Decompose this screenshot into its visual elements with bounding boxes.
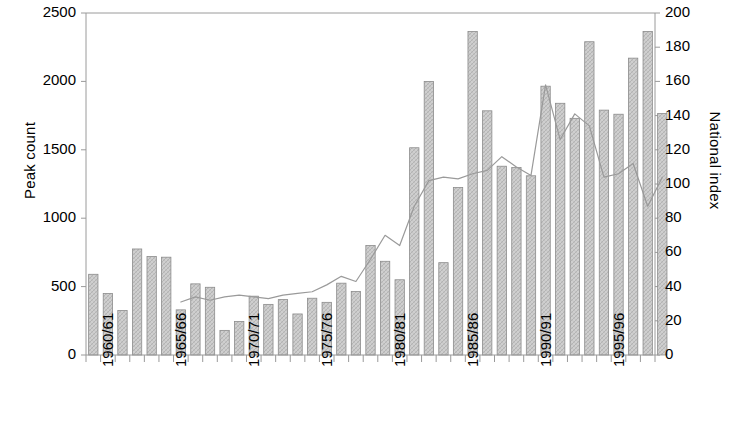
x-tick-label: 1970/71 — [245, 313, 262, 367]
bar — [556, 103, 565, 355]
y-tick-label-right: 80 — [665, 208, 709, 225]
y-tick-label-left: 2000 — [32, 71, 76, 88]
y-tick-label-right: 200 — [665, 3, 709, 20]
plot-area — [0, 0, 742, 439]
bar — [468, 31, 477, 355]
bar — [162, 257, 171, 355]
bar — [89, 274, 98, 355]
bar — [235, 321, 244, 355]
bar — [380, 261, 389, 355]
bar — [337, 283, 346, 355]
y-tick-label-right: 160 — [665, 71, 709, 88]
y-tick-label-right: 20 — [665, 311, 709, 328]
x-tick-label: 1960/61 — [99, 313, 116, 367]
y-tick-label-left: 0 — [32, 345, 76, 362]
bar-series — [89, 31, 667, 355]
bar — [205, 287, 214, 355]
bar — [570, 118, 579, 355]
left-axis-ticks — [81, 13, 86, 355]
y-tick-label-left: 1000 — [32, 208, 76, 225]
bar — [366, 246, 375, 355]
bar — [453, 187, 462, 355]
x-tick-label: 1980/81 — [391, 313, 408, 367]
bar — [585, 42, 594, 355]
y-tick-label-left: 500 — [32, 277, 76, 294]
y-tick-label-left: 2500 — [32, 3, 76, 20]
bar — [483, 111, 492, 355]
x-tick-label: 1995/96 — [610, 313, 627, 367]
chart-container: Peak count National index 05001000150020… — [0, 0, 742, 439]
bar — [599, 110, 608, 355]
y-tick-label-right: 60 — [665, 242, 709, 259]
bar — [439, 263, 448, 355]
bar — [278, 300, 287, 355]
bar — [351, 291, 360, 355]
x-tick-label: 1990/91 — [537, 313, 554, 367]
y-tick-label-right: 180 — [665, 37, 709, 54]
bar — [132, 249, 141, 355]
y-tick-label-right: 0 — [665, 345, 709, 362]
y-tick-label-right: 100 — [665, 174, 709, 191]
bar — [512, 168, 521, 355]
x-tick-label: 1965/66 — [172, 313, 189, 367]
y-tick-label-right: 140 — [665, 106, 709, 123]
y-tick-label-left: 1500 — [32, 140, 76, 157]
bar — [410, 148, 419, 355]
y-tick-label-right: 120 — [665, 140, 709, 157]
bar — [307, 298, 316, 355]
bar — [497, 166, 506, 355]
y-tick-label-right: 40 — [665, 277, 709, 294]
bar — [264, 304, 273, 355]
bar — [220, 330, 229, 355]
bar — [118, 311, 127, 355]
bar — [293, 314, 302, 355]
bar — [643, 31, 652, 355]
bar — [191, 284, 200, 355]
bar — [424, 81, 433, 355]
bar — [526, 176, 535, 355]
bar — [147, 257, 156, 356]
bar — [628, 58, 637, 355]
x-tick-label: 1975/76 — [318, 313, 335, 367]
x-tick-label: 1985/86 — [464, 313, 481, 367]
